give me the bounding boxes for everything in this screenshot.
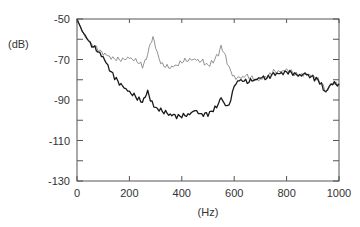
plot-border xyxy=(77,19,339,181)
y-tick-label: -110 xyxy=(49,135,70,147)
y-tick-label: -90 xyxy=(54,94,70,106)
series-lower-line xyxy=(77,19,339,119)
y-tick-label: -50 xyxy=(54,13,70,25)
x-tick-label: 400 xyxy=(173,187,191,199)
series-upper-line xyxy=(77,19,339,93)
y-tick-label: -70 xyxy=(54,54,70,66)
x-tick-label: 200 xyxy=(120,187,138,199)
x-tick-label: 0 xyxy=(74,187,80,199)
x-axis-label: (Hz) xyxy=(198,206,219,218)
series-layer xyxy=(77,19,339,119)
y-axis-label: (dB) xyxy=(8,38,29,50)
plot-frame xyxy=(77,19,339,181)
x-tick-label: 1000 xyxy=(327,187,351,199)
x-tick-label: 600 xyxy=(225,187,243,199)
ticks-layer: 02004006008001000-50-70-90-110-130 xyxy=(48,13,351,199)
chart: 02004006008001000-50-70-90-110-130 (dB) … xyxy=(0,0,360,227)
x-tick-label: 800 xyxy=(277,187,295,199)
y-tick-label: -130 xyxy=(48,175,70,187)
